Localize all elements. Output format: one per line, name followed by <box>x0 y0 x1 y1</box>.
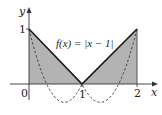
x-tick-label-1: 1 <box>79 88 86 101</box>
x-tick-label-2: 2 <box>134 87 141 100</box>
function-label: f(x) = |x − 1| <box>56 37 114 50</box>
y-axis-label: y <box>18 5 26 18</box>
y-tick-label-1: 1 <box>19 23 26 36</box>
graph-canvas: y 1 0 1 2 x f(x) = |x − 1| <box>0 0 162 115</box>
y-axis-arrow-icon <box>27 7 32 13</box>
x-tick-label-0: 0 <box>21 87 28 100</box>
x-axis-label: x <box>151 86 158 99</box>
